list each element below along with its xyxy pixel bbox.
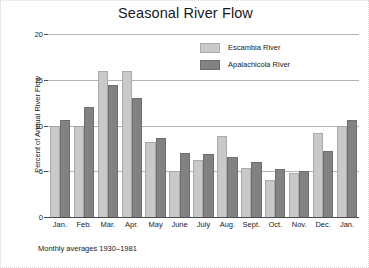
chart-legend: Escambia RiverApalachicola River xyxy=(200,41,290,75)
bar xyxy=(313,133,323,217)
y-axis-tick-mark xyxy=(44,217,48,218)
bar xyxy=(203,154,213,217)
bar xyxy=(337,126,347,218)
bar xyxy=(180,153,190,217)
bar xyxy=(84,107,94,217)
bar-group xyxy=(122,34,142,217)
legend-swatch-icon xyxy=(200,43,220,53)
x-axis-tick-label: May xyxy=(144,220,168,229)
bar xyxy=(50,126,60,218)
bar xyxy=(108,85,118,217)
x-axis-tick-labels: Jan.Feb.Mar.Apr.MayJuneJulyAug.Sept.Oct.… xyxy=(48,220,359,234)
x-axis-tick-label: Sept. xyxy=(239,220,263,229)
x-axis-tick-label: Oct. xyxy=(263,220,287,229)
bar xyxy=(217,136,227,217)
legend-label: Apalachicola River xyxy=(228,60,290,69)
x-axis-tick-label: Feb. xyxy=(72,220,96,229)
x-axis-tick-label: Jan. xyxy=(48,220,72,229)
gridline xyxy=(48,217,359,218)
x-axis-tick-label: Mar. xyxy=(96,220,120,229)
bar-group xyxy=(50,34,70,217)
bar xyxy=(122,71,132,217)
chart-footnote: Monthly averages 1930–1981 xyxy=(38,244,137,253)
bar xyxy=(169,171,179,217)
bar xyxy=(265,180,275,218)
bar-group xyxy=(169,34,189,217)
legend-item[interactable]: Apalachicola River xyxy=(200,58,290,71)
bar xyxy=(193,160,203,217)
y-axis-tick-label: 0 xyxy=(21,213,43,222)
bar xyxy=(98,71,108,217)
bar xyxy=(132,98,142,217)
bar xyxy=(347,120,357,217)
x-axis-tick-label: June xyxy=(168,220,192,229)
bar xyxy=(227,157,237,217)
x-axis-tick-label: Dec. xyxy=(311,220,335,229)
y-axis-tick-labels: 05101520 xyxy=(19,34,43,217)
bar xyxy=(251,162,261,217)
legend-item[interactable]: Escambia River xyxy=(200,41,290,54)
y-axis-tick-label: 15 xyxy=(21,75,43,84)
x-axis-tick-label: Nov. xyxy=(287,220,311,229)
chart-figure: Seasonal River Flow Percent of Annual Ri… xyxy=(0,0,369,268)
x-axis-tick-label: Apr. xyxy=(120,220,144,229)
bar xyxy=(289,173,299,217)
bar-group xyxy=(289,34,309,217)
y-axis-tick-label: 10 xyxy=(21,121,43,130)
y-axis-tick-label: 20 xyxy=(21,30,43,39)
bar-group xyxy=(337,34,357,217)
bar-group xyxy=(145,34,165,217)
bar xyxy=(323,151,333,217)
page-title: Seasonal River Flow xyxy=(1,5,369,21)
x-axis-tick-label: Aug. xyxy=(215,220,239,229)
legend-swatch-icon xyxy=(200,60,220,70)
bar xyxy=(156,138,166,217)
x-axis-tick-label: Jan. xyxy=(335,220,359,229)
x-axis-tick-label: July xyxy=(192,220,216,229)
bar-group xyxy=(313,34,333,217)
bar xyxy=(241,168,251,217)
bar xyxy=(299,171,309,217)
bar-group xyxy=(98,34,118,217)
y-axis-tick-label: 5 xyxy=(21,167,43,176)
bar xyxy=(275,169,285,217)
bar xyxy=(74,126,84,218)
bar xyxy=(60,120,70,217)
bar xyxy=(145,142,155,217)
bar-group xyxy=(74,34,94,217)
legend-label: Escambia River xyxy=(228,43,281,52)
